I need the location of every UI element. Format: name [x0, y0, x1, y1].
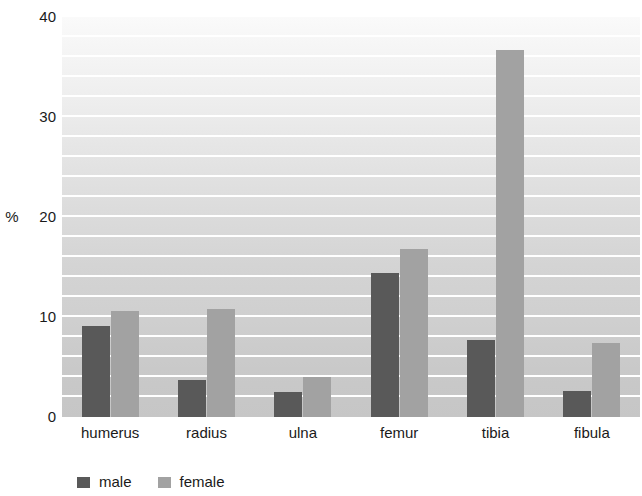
bar-ulna-male[interactable]	[274, 392, 302, 417]
bar-ulna-female[interactable]	[303, 377, 331, 417]
legend-swatch-icon	[77, 477, 90, 488]
y-axis-title: %	[2, 209, 22, 225]
x-axis-tick-label: tibia	[482, 424, 510, 442]
y-axis-tick-label: 20	[24, 209, 56, 225]
y-axis-tick-label: 40	[24, 9, 56, 25]
bar-tibia-male[interactable]	[467, 340, 495, 417]
bar-tibia-female[interactable]	[496, 50, 524, 417]
plot-area	[62, 17, 640, 417]
legend-item-female[interactable]: female	[158, 474, 225, 490]
y-axis-tick-label: 0	[24, 409, 56, 425]
x-axis-tick-label: fibula	[574, 424, 610, 442]
y-axis-tick-labels: 010203040	[24, 0, 56, 496]
bar-group	[563, 17, 620, 417]
bar-humerus-female[interactable]	[111, 311, 139, 417]
bar-chart: % 010203040 humerusradiusulnafemurtibiaf…	[0, 0, 642, 496]
legend-label: female	[180, 474, 225, 490]
legend-label: male	[99, 474, 132, 490]
x-axis-tick-labels: humerusradiusulnafemurtibiafibula	[62, 424, 640, 446]
bar-group	[467, 17, 524, 417]
bar-group	[371, 17, 428, 417]
bar-femur-female[interactable]	[400, 249, 428, 417]
bar-fibula-female[interactable]	[592, 343, 620, 417]
y-axis-tick-label: 30	[24, 109, 56, 125]
x-axis-tick-label: femur	[380, 424, 418, 442]
legend: malefemale	[77, 472, 225, 492]
bar-group	[178, 17, 235, 417]
bar-femur-male[interactable]	[371, 273, 399, 417]
bar-humerus-male[interactable]	[82, 326, 110, 417]
bar-radius-male[interactable]	[178, 380, 206, 417]
bars-layer	[62, 17, 640, 417]
x-axis-tick-label: humerus	[81, 424, 139, 442]
legend-swatch-icon	[158, 477, 171, 488]
legend-item-male[interactable]: male	[77, 474, 132, 490]
bar-fibula-male[interactable]	[563, 391, 591, 417]
y-axis-tick-label: 10	[24, 309, 56, 325]
bar-radius-female[interactable]	[207, 309, 235, 417]
bar-group	[274, 17, 331, 417]
x-axis-tick-label: ulna	[289, 424, 317, 442]
x-axis-tick-label: radius	[186, 424, 227, 442]
bar-group	[82, 17, 139, 417]
